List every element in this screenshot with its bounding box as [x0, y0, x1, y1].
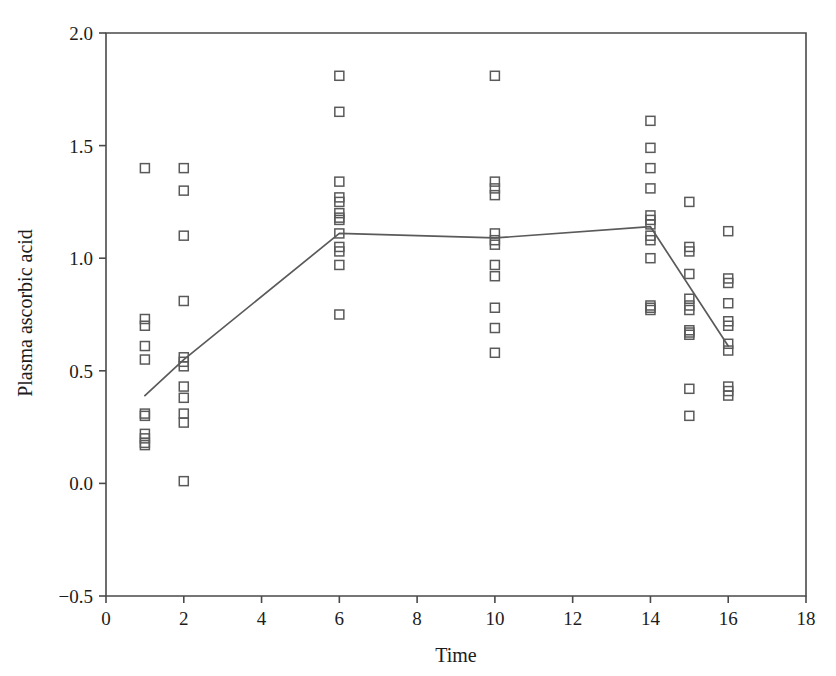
data-point-marker — [724, 227, 733, 236]
data-point-marker — [490, 191, 499, 200]
data-point-marker — [685, 411, 694, 420]
data-point-marker — [646, 184, 655, 193]
data-point-marker — [685, 328, 694, 337]
data-point-marker — [179, 164, 188, 173]
data-point-marker — [490, 348, 499, 357]
x-tick-label: 0 — [101, 608, 111, 629]
data-point-marker — [646, 164, 655, 173]
data-point-marker — [140, 409, 149, 418]
data-point-marker — [179, 418, 188, 427]
y-tick-label: 0.5 — [69, 361, 93, 382]
data-point-marker — [646, 303, 655, 312]
x-tick-label: 10 — [485, 608, 504, 629]
x-tick-label: 8 — [412, 608, 422, 629]
data-point-marker — [140, 411, 149, 420]
y-tick-label: 1.5 — [69, 136, 93, 157]
data-point-marker — [140, 164, 149, 173]
axes — [106, 33, 806, 596]
data-point-marker — [179, 477, 188, 486]
data-point-marker — [179, 393, 188, 402]
data-point-marker — [490, 324, 499, 333]
data-point-marker — [335, 177, 344, 186]
data-point-marker — [724, 346, 733, 355]
data-point-markers — [140, 71, 732, 485]
data-point-marker — [490, 71, 499, 80]
data-point-marker — [140, 321, 149, 330]
data-point-marker — [140, 342, 149, 351]
y-tick-label: 2.0 — [69, 23, 93, 44]
data-point-marker — [490, 272, 499, 281]
mean-trend-line — [145, 227, 728, 396]
data-point-marker — [490, 260, 499, 269]
data-point-marker — [179, 231, 188, 240]
x-tick-label: 6 — [335, 608, 345, 629]
x-axis-title: Time — [435, 644, 477, 666]
data-point-marker — [335, 71, 344, 80]
x-tick-labels: 024681012141618 — [101, 608, 815, 629]
data-point-marker — [646, 254, 655, 263]
plot-canvas: 024681012141618 −0.50.00.51.01.52.0 Time… — [0, 0, 836, 676]
x-tick-label: 4 — [257, 608, 267, 629]
data-point-marker — [335, 310, 344, 319]
data-point-marker — [179, 409, 188, 418]
data-point-marker — [685, 269, 694, 278]
x-tick-label: 16 — [719, 608, 738, 629]
data-point-marker — [179, 186, 188, 195]
y-tick-label: 1.0 — [69, 248, 93, 269]
data-point-marker — [335, 260, 344, 269]
data-point-marker — [685, 197, 694, 206]
tick-marks — [99, 33, 806, 603]
x-tick-label: 14 — [641, 608, 661, 629]
data-point-marker — [490, 177, 499, 186]
data-point-marker — [724, 299, 733, 308]
data-point-marker — [140, 315, 149, 324]
data-point-marker — [646, 116, 655, 125]
x-tick-label: 12 — [563, 608, 582, 629]
y-tick-label: −0.5 — [59, 586, 93, 607]
data-point-marker — [335, 107, 344, 116]
data-point-marker — [335, 215, 344, 224]
y-tick-labels: −0.50.00.51.01.52.0 — [59, 23, 93, 607]
y-tick-label: 0.0 — [69, 473, 93, 494]
data-point-marker — [490, 303, 499, 312]
data-point-marker — [140, 441, 149, 450]
data-point-marker — [179, 382, 188, 391]
data-point-marker — [179, 296, 188, 305]
data-point-marker — [646, 143, 655, 152]
data-point-marker — [490, 229, 499, 238]
scatter-plot-figure: 024681012141618 −0.50.00.51.01.52.0 Time… — [0, 0, 836, 676]
data-point-marker — [490, 184, 499, 193]
mean-trend-path — [145, 227, 728, 396]
x-tick-label: 18 — [797, 608, 816, 629]
data-point-marker — [685, 294, 694, 303]
y-axis-title: Plasma ascorbic acid — [14, 229, 36, 397]
x-tick-label: 2 — [179, 608, 189, 629]
data-point-marker — [140, 355, 149, 364]
data-point-marker — [685, 384, 694, 393]
